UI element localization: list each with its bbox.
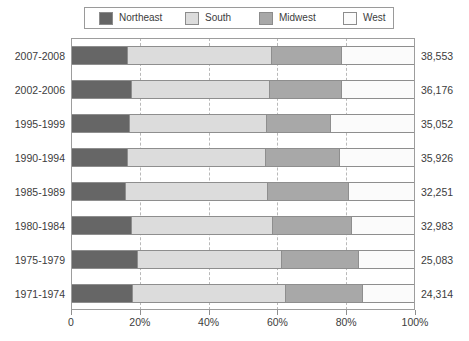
y-axis-tick-label: 2007-2008 <box>3 51 65 62</box>
bar-segment-northeast[interactable] <box>71 46 128 65</box>
bar-row[interactable] <box>71 182 415 201</box>
bar-segment-midwest[interactable] <box>272 46 342 65</box>
y-axis-tick-label: 1995-1999 <box>3 119 65 130</box>
bar-segment-west[interactable] <box>342 80 415 99</box>
bar-row[interactable] <box>71 46 415 65</box>
bar-segment-south[interactable] <box>128 148 265 167</box>
bar-segment-northeast[interactable] <box>71 284 133 303</box>
bar-segment-northeast[interactable] <box>71 148 128 167</box>
bar-segment-west[interactable] <box>363 284 415 303</box>
bar-segment-northeast[interactable] <box>71 250 138 269</box>
bar-row[interactable] <box>71 250 415 269</box>
bar-segment-south[interactable] <box>128 46 272 65</box>
row-total-label: 25,083 <box>421 255 453 266</box>
legend-swatch-northeast <box>99 12 113 25</box>
row-total-label: 35,052 <box>421 119 453 130</box>
row-total-labels: 38,55336,17635,05235,92632,25132,98325,0… <box>421 38 469 310</box>
legend-item-midwest: Midwest <box>259 8 316 28</box>
legend-swatch-west <box>343 12 357 25</box>
legend-label-northeast: Northeast <box>119 13 162 23</box>
row-total-label: 36,176 <box>421 85 453 96</box>
x-axis-tick-label: 20% <box>129 317 150 328</box>
y-axis-labels: 2007-20082002-20061995-19991990-19941985… <box>0 38 65 310</box>
bar-segment-midwest[interactable] <box>270 80 342 99</box>
bar-segment-northeast[interactable] <box>71 80 132 99</box>
row-total-label: 32,251 <box>421 187 453 198</box>
bar-row[interactable] <box>71 284 415 303</box>
y-axis-tick-label: 1985-1989 <box>3 187 65 198</box>
bar-segment-south[interactable] <box>126 182 269 201</box>
legend-item-west: West <box>343 8 386 28</box>
x-axis-tick <box>209 310 210 315</box>
legend-label-west: West <box>363 13 386 23</box>
x-axis-tick <box>140 310 141 315</box>
x-axis-tick-label: 0 <box>68 317 74 328</box>
legend-label-midwest: Midwest <box>279 13 316 23</box>
bar-segment-northeast[interactable] <box>71 182 126 201</box>
bar-segment-midwest[interactable] <box>266 148 340 167</box>
x-axis-tick <box>71 310 72 315</box>
y-axis-tick-label: 2002-2006 <box>3 85 65 96</box>
bar-row[interactable] <box>71 216 415 235</box>
bar-segment-northeast[interactable] <box>71 216 132 235</box>
bar-segment-midwest[interactable] <box>286 284 363 303</box>
bar-segment-south[interactable] <box>132 216 273 235</box>
bar-segment-south[interactable] <box>130 114 267 133</box>
legend-item-northeast: Northeast <box>99 8 162 28</box>
bar-row[interactable] <box>71 80 415 99</box>
bar-segment-midwest[interactable] <box>268 182 348 201</box>
x-axis-tick-label: 100% <box>402 317 429 328</box>
x-axis-tick <box>277 310 278 315</box>
bar-row[interactable] <box>71 148 415 167</box>
bar-segment-west[interactable] <box>359 250 415 269</box>
chart-legend: Northeast South Midwest West <box>84 7 394 29</box>
legend-swatch-south <box>185 12 199 25</box>
legend-swatch-midwest <box>259 12 273 25</box>
legend-label-south: South <box>205 13 231 23</box>
bar-segment-midwest[interactable] <box>282 250 359 269</box>
bar-segment-midwest[interactable] <box>273 216 352 235</box>
bar-row[interactable] <box>71 114 415 133</box>
x-axis-tick-label: 60% <box>267 317 288 328</box>
bar-segment-west[interactable] <box>349 182 415 201</box>
x-axis-tick-label: 40% <box>198 317 219 328</box>
bar-segment-south[interactable] <box>138 250 281 269</box>
bar-segment-midwest[interactable] <box>267 114 330 133</box>
y-axis-tick-label: 1975-1979 <box>3 255 65 266</box>
bar-segment-west[interactable] <box>331 114 415 133</box>
bar-segment-west[interactable] <box>352 216 415 235</box>
x-axis-tick <box>415 310 416 315</box>
bar-segment-west[interactable] <box>342 46 415 65</box>
row-total-label: 24,314 <box>421 289 453 300</box>
row-total-label: 32,983 <box>421 221 453 232</box>
x-axis-tick <box>346 310 347 315</box>
bar-segment-northeast[interactable] <box>71 114 130 133</box>
y-axis-tick-label: 1990-1994 <box>3 153 65 164</box>
row-total-label: 35,926 <box>421 153 453 164</box>
plot-area <box>71 38 415 310</box>
x-axis: 020%40%60%80%100% <box>71 310 415 336</box>
y-axis-tick-label: 1971-1974 <box>3 289 65 300</box>
x-axis-tick-label: 80% <box>336 317 357 328</box>
row-total-label: 38,553 <box>421 51 453 62</box>
bar-segment-south[interactable] <box>132 80 270 99</box>
y-axis-tick-label: 1980-1984 <box>3 221 65 232</box>
legend-item-south: South <box>185 8 231 28</box>
bar-segment-south[interactable] <box>133 284 286 303</box>
bar-segment-west[interactable] <box>340 148 415 167</box>
